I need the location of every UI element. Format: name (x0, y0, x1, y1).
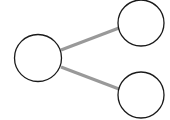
edge-left-to-top-right (61, 28, 119, 50)
node-top-right (118, 0, 164, 46)
diagram-canvas (0, 0, 170, 120)
node-left (15, 35, 62, 82)
edge-left-to-bottom-right (61, 67, 119, 89)
node-bottom-right (118, 72, 164, 118)
node-link-diagram (0, 0, 170, 120)
